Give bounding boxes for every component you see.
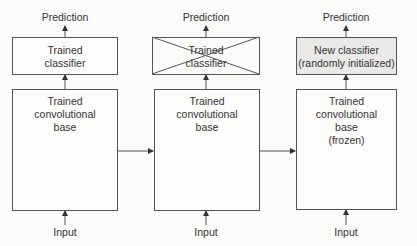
- input-label: Input: [20, 226, 110, 239]
- base-label-line3: base: [155, 121, 259, 134]
- frozen-convolutional-base-box: Trained convolutional base (frozen): [296, 89, 397, 210]
- prediction-label: Prediction: [20, 11, 110, 24]
- input-label: Input: [301, 226, 391, 239]
- classifier-label-line1: Trained: [153, 44, 259, 57]
- classifier-label-line2: classifier: [153, 57, 259, 70]
- convolutional-base-box: Trained convolutional base: [154, 89, 260, 211]
- prediction-label: Prediction: [301, 11, 391, 24]
- base-label-line1: Trained: [155, 95, 259, 108]
- base-label-line2: convolutional: [155, 108, 259, 121]
- classifier-label-line2: (randomly initialized): [297, 57, 396, 70]
- new-classifier-box: New classifier (randomly initialized): [296, 37, 397, 75]
- classifier-label-line1: Trained: [13, 44, 117, 57]
- base-label-line1: Trained: [13, 95, 117, 108]
- convolutional-base-box: Trained convolutional base: [12, 89, 118, 211]
- input-label: Input: [161, 226, 251, 239]
- removed-classifier-box: Trained classifier: [152, 37, 260, 75]
- base-label-line2: convolutional: [297, 108, 396, 121]
- base-label-line4: (frozen): [297, 134, 396, 147]
- prediction-label: Prediction: [161, 11, 251, 24]
- classifier-label-line2: classifier: [13, 57, 117, 70]
- base-label-line3: base: [13, 121, 117, 134]
- base-label-line3: base: [297, 121, 396, 134]
- classifier-label-line1: New classifier: [297, 44, 396, 57]
- trained-classifier-box: Trained classifier: [12, 37, 118, 75]
- base-label-line1: Trained: [297, 95, 396, 108]
- base-label-line2: convolutional: [13, 108, 117, 121]
